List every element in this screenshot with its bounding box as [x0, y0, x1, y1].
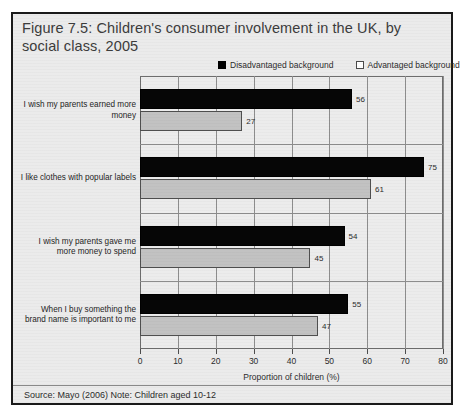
axis-tick — [443, 349, 444, 354]
category-label: I like clothes with popular labels — [18, 173, 136, 184]
bar — [140, 111, 242, 131]
axis-tick-label: 0 — [138, 356, 143, 366]
category-axis-labels: I wish my parents earned more moneyI lik… — [13, 76, 136, 349]
bar — [140, 179, 371, 199]
category-label: I wish my parents gave me more money to … — [18, 236, 136, 257]
figure-title: Figure 7.5: Children's consumer involvem… — [22, 19, 437, 55]
axis-tick — [329, 349, 330, 354]
outlined-square-icon — [356, 61, 364, 69]
legend-item-disadvantaged: Disadvantaged background — [218, 60, 334, 70]
axis-tick-label: 30 — [249, 356, 258, 366]
axis-tick — [254, 349, 255, 354]
axis-tick-label: 20 — [211, 356, 220, 366]
bar-value-label: 45 — [314, 253, 323, 262]
bar-value-label: 55 — [352, 299, 361, 308]
chart-legend: Disadvantaged background Advantaged back… — [218, 60, 460, 70]
axis-tick — [367, 349, 368, 354]
legend-label-advantaged: Advantaged background — [368, 60, 460, 70]
axis-tick-label: 50 — [325, 356, 334, 366]
group-separator — [140, 144, 443, 145]
axis-tick — [216, 349, 217, 354]
axis-tick-label: 10 — [173, 356, 182, 366]
bar — [140, 294, 348, 314]
axis-tick-label: 40 — [287, 356, 296, 366]
legend-label-disadvantaged: Disadvantaged background — [230, 60, 334, 70]
axis-tick — [178, 349, 179, 354]
bar — [140, 248, 310, 268]
x-axis: 01020304050607080 — [140, 349, 443, 371]
category-label: When I buy something the brand name is i… — [18, 304, 136, 325]
filled-square-icon — [218, 61, 226, 69]
bar-value-label: 27 — [246, 117, 255, 126]
group-separator — [140, 281, 443, 282]
footer-divider — [13, 385, 451, 386]
category-label: I wish my parents earned more money — [18, 100, 136, 121]
bar-value-label: 47 — [322, 321, 331, 330]
bar-value-label: 75 — [428, 163, 437, 172]
legend-item-advantaged: Advantaged background — [356, 60, 460, 70]
bar-value-label: 54 — [349, 231, 358, 240]
bar — [140, 226, 345, 246]
axis-tick-label: 70 — [400, 356, 409, 366]
bar — [140, 316, 318, 336]
source-note: Source: Mayo (2006) Note: Children aged … — [24, 390, 216, 400]
plot-area: 5627756154455547 — [140, 76, 443, 349]
gridline — [443, 76, 444, 349]
bar-value-label: 56 — [356, 95, 365, 104]
bar — [140, 157, 424, 177]
axis-tick-label: 60 — [363, 356, 372, 366]
x-axis-title: Proportion of children (%) — [140, 372, 443, 382]
axis-tick — [292, 349, 293, 354]
group-separator — [140, 213, 443, 214]
figure-container: Figure 7.5: Children's consumer involvem… — [11, 12, 453, 405]
axis-tick — [140, 349, 141, 354]
axis-tick-label: 80 — [438, 356, 447, 366]
bar-value-label: 61 — [375, 185, 384, 194]
bar — [140, 89, 352, 109]
axis-tick — [405, 349, 406, 354]
